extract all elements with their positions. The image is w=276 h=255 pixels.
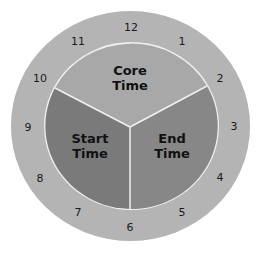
flextime-clock-diagram: Core Time Start Time End Time 12 1 2 3 4…	[0, 0, 276, 255]
hour-2: 2	[217, 72, 224, 85]
hour-3: 3	[231, 120, 238, 133]
hour-9: 9	[25, 121, 32, 134]
hour-5: 5	[179, 206, 186, 219]
hour-7: 7	[75, 206, 82, 219]
hour-8: 8	[37, 172, 44, 185]
hour-12: 12	[124, 21, 138, 34]
hour-11: 11	[71, 35, 85, 48]
hour-10: 10	[33, 72, 47, 85]
label-end-line2: Time	[154, 146, 190, 161]
label-start-line1: Start	[72, 131, 109, 146]
label-core-line2: Time	[112, 78, 148, 93]
label-start-line2: Time	[72, 146, 108, 161]
hour-6: 6	[127, 221, 134, 234]
label-core-line1: Core	[113, 63, 147, 78]
hour-1: 1	[179, 35, 186, 48]
label-end-line1: End	[158, 131, 185, 146]
hour-4: 4	[217, 171, 224, 184]
